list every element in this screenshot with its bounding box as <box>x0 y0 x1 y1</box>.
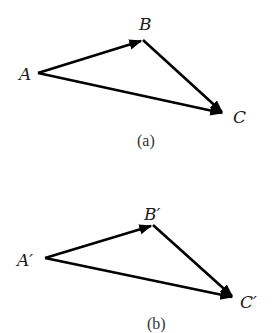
figure-a: A B C (a) <box>17 14 246 150</box>
caption-b: (b) <box>147 315 166 333</box>
vector-b-prime-to-c-prime <box>153 225 232 296</box>
figure-b: A′ B′ C′ (b) <box>15 204 257 333</box>
label-a: A <box>17 64 31 84</box>
vector-a-to-b <box>38 41 141 73</box>
vector-a-prime-to-b-prime <box>45 226 151 258</box>
label-b-prime: B′ <box>143 204 160 224</box>
vector-a-to-c <box>38 73 222 113</box>
vector-diagram: A B C (a) A′ B′ C′ (b) <box>0 0 277 333</box>
label-c: C <box>233 107 246 127</box>
vector-a-prime-to-c-prime <box>45 258 232 297</box>
caption-a: (a) <box>137 132 155 150</box>
vector-b-to-c <box>143 40 222 112</box>
label-c-prime: C′ <box>240 292 257 312</box>
label-a-prime: A′ <box>15 250 33 270</box>
label-b: B <box>138 14 152 34</box>
